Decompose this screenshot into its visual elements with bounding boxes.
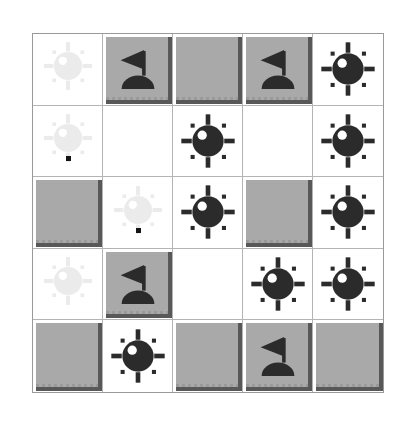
cell-r4c4[interactable] <box>243 249 313 321</box>
minefield-grid <box>32 33 384 393</box>
cell-r1c2[interactable] <box>103 34 173 106</box>
cell-r3c4[interactable] <box>243 177 313 249</box>
marker-dot-icon <box>66 156 71 161</box>
mine-icon <box>179 112 237 170</box>
mine-icon <box>319 40 377 98</box>
covered-tile[interactable] <box>176 37 238 100</box>
cell-r5c3[interactable] <box>173 320 243 392</box>
cell-r3c1[interactable] <box>33 177 103 249</box>
ghost-mine-watermark-icon <box>42 40 94 92</box>
covered-tile[interactable] <box>246 180 308 243</box>
cell-r4c2[interactable] <box>103 249 173 321</box>
board-title: Minesweeper Board <box>0 0 1 1</box>
cell-r5c1[interactable] <box>33 320 103 392</box>
mine-icon <box>249 255 307 313</box>
cell-r4c3[interactable] <box>173 249 243 321</box>
flag-icon <box>112 263 164 309</box>
cell-r2c1[interactable] <box>33 106 103 178</box>
minefield-board <box>32 33 384 393</box>
mine-icon <box>319 112 377 170</box>
ghost-mine-watermark-icon <box>42 255 94 307</box>
cell-r2c5[interactable] <box>313 106 383 178</box>
cell-r2c2[interactable] <box>103 106 173 178</box>
flag-icon <box>252 48 304 94</box>
cell-r2c4[interactable] <box>243 106 313 178</box>
cell-r5c5[interactable] <box>313 320 383 392</box>
cell-r1c3[interactable] <box>173 34 243 106</box>
mine-icon <box>319 255 377 313</box>
cell-r2c3[interactable] <box>173 106 243 178</box>
mine-icon <box>109 327 167 385</box>
cell-r3c2[interactable] <box>103 177 173 249</box>
cell-r1c5[interactable] <box>313 34 383 106</box>
mine-icon <box>179 183 237 241</box>
cell-r3c3[interactable] <box>173 177 243 249</box>
flag-icon <box>252 335 304 381</box>
covered-tile[interactable] <box>36 323 98 387</box>
mine-icon <box>319 183 377 241</box>
cell-r3c5[interactable] <box>313 177 383 249</box>
cell-r5c2[interactable] <box>103 320 173 392</box>
cell-r5c4[interactable] <box>243 320 313 392</box>
cell-r4c5[interactable] <box>313 249 383 321</box>
cell-r1c4[interactable] <box>243 34 313 106</box>
marker-dot-icon <box>136 228 141 233</box>
cell-r1c1[interactable] <box>33 34 103 106</box>
covered-tile[interactable] <box>316 323 379 387</box>
cell-r4c1[interactable] <box>33 249 103 321</box>
covered-tile[interactable] <box>176 323 238 387</box>
covered-tile[interactable] <box>36 180 98 243</box>
flag-icon <box>112 48 164 94</box>
